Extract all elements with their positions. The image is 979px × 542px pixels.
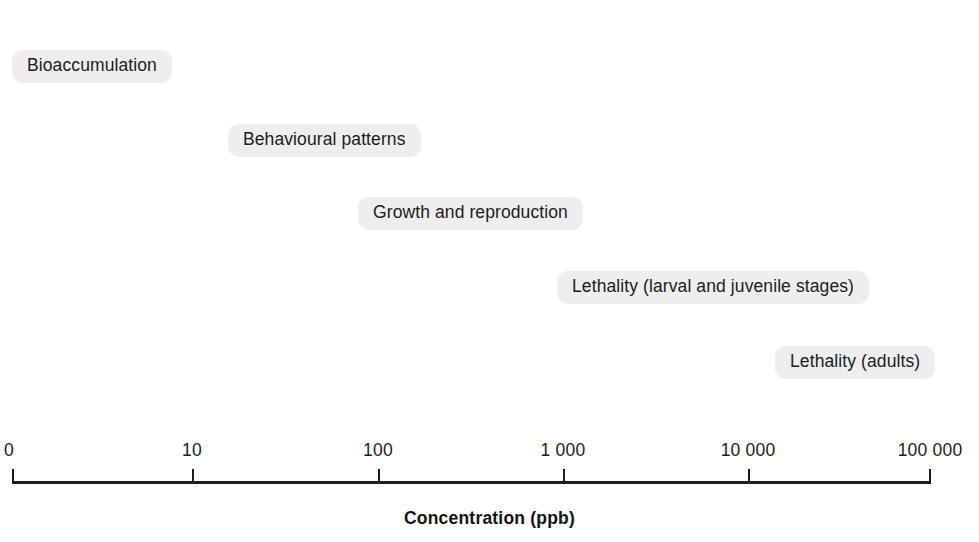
concentration-axis-line [12, 481, 931, 484]
effect-label-lethality-larval-juvenile: Lethality (larval and juvenile stages) [557, 271, 869, 304]
axis-tick-100 [378, 469, 380, 482]
effect-label-behavioural-patterns: Behavioural patterns [228, 124, 421, 157]
axis-tick-label-0: 0 [4, 440, 14, 461]
axis-tick-100000 [929, 469, 931, 482]
clipped-caption-fragment [8, 0, 308, 3]
axis-tick-10000 [748, 469, 750, 482]
axis-tick-10 [192, 469, 194, 482]
axis-tick-label-10: 10 [182, 440, 202, 461]
axis-tick-label-100000: 100 000 [898, 440, 963, 461]
figure-canvas: Bioaccumulation Behavioural patterns Gro… [0, 0, 979, 542]
effect-label-lethality-adults: Lethality (adults) [775, 346, 935, 379]
axis-tick-0 [12, 469, 14, 482]
axis-tick-label-100: 100 [363, 440, 393, 461]
axis-tick-label-1000: 1 000 [541, 440, 586, 461]
axis-tick-label-10000: 10 000 [721, 440, 776, 461]
axis-tick-1000 [563, 469, 565, 482]
effect-label-growth-and-reproduction: Growth and reproduction [358, 197, 583, 230]
effect-label-bioaccumulation: Bioaccumulation [12, 50, 172, 83]
axis-title: Concentration (ppb) [0, 508, 979, 529]
